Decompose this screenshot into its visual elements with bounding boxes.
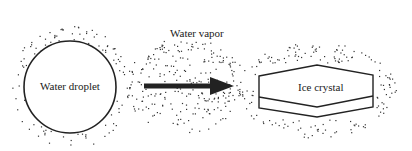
diagram-canvas [0, 0, 412, 151]
water-vapor-label: Water vapor [170, 27, 224, 39]
water-droplet-label: Water droplet [40, 80, 100, 92]
transfer-arrow-icon [144, 77, 234, 95]
ice-crystal-label: Ice crystal [298, 81, 344, 93]
